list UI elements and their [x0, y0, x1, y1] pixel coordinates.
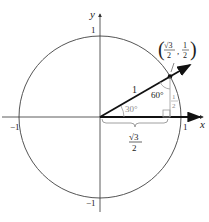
adjacent-brace: [102, 119, 168, 127]
x-axis-label: x: [199, 118, 205, 130]
hypotenuse-label: 1: [132, 84, 137, 95]
point-x-num: √3: [164, 41, 172, 50]
adjacent-num: √3: [129, 132, 139, 142]
point-paren-right: ): [190, 38, 197, 61]
unit-circle-diagram: y x 1 −1 −1 1 1 60° 30° 1 2 √3 2 ( √3 2 …: [0, 0, 209, 222]
angle-arc-60: [160, 82, 170, 89]
point-y-num: 1: [183, 41, 187, 50]
right-angle-marker: [163, 110, 170, 117]
y-tick-pos: 1: [91, 25, 96, 35]
y-tick-neg: −1: [86, 198, 96, 208]
point-leader: [171, 63, 174, 72]
angle-60-label: 60°: [151, 90, 164, 100]
point-y-den: 2: [183, 51, 187, 60]
x-tick-neg: −1: [10, 122, 20, 132]
opposite-den: 2: [172, 102, 176, 110]
x-tick-pos: 1: [183, 122, 188, 132]
angle-30-label: 30°: [125, 104, 138, 114]
point-x-den: 2: [167, 51, 171, 60]
adjacent-den: 2: [132, 143, 137, 153]
opposite-num: 1: [172, 93, 176, 101]
point-comma: ,: [177, 46, 179, 56]
y-axis-label: y: [89, 8, 95, 20]
angle-arc-30: [121, 106, 124, 117]
